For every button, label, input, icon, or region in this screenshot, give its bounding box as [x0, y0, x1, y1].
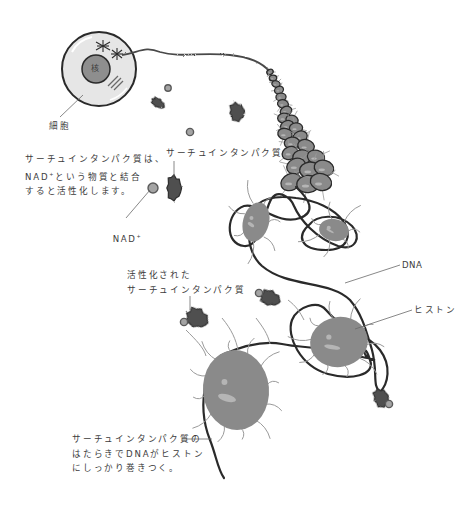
nad-molecule	[186, 128, 193, 135]
histone-tail	[344, 205, 361, 222]
wrapping-note-line3: にしっかり巻きつく。	[72, 461, 204, 476]
nad-molecule	[255, 289, 262, 296]
nucleosome-highlight	[274, 84, 277, 85]
sirtuin-protein	[183, 304, 212, 332]
histone-tail	[248, 338, 255, 355]
activation-note-line1: サーチュインタンパク質は、	[25, 152, 165, 167]
sirtuin-protein	[228, 101, 246, 123]
histone-tail	[255, 420, 270, 439]
nucleosome-highlight	[292, 128, 296, 130]
histone-tail	[261, 352, 280, 367]
activated-sirtuin	[180, 304, 212, 332]
histone-highlight	[326, 334, 331, 339]
nucleosome-highlight	[304, 170, 311, 173]
nad-molecule	[165, 85, 171, 91]
nucleosome-highlight	[302, 185, 309, 188]
cell-leader-line	[60, 95, 83, 117]
nucleosome-highlight	[271, 78, 273, 79]
chromatin-fiber	[122, 49, 270, 72]
nucleosome-highlight	[315, 182, 322, 185]
nucleosome-highlight	[286, 153, 291, 155]
histone-tail	[344, 365, 348, 377]
nucleosome-highlight	[285, 182, 292, 185]
nucleosome-chain	[266, 67, 339, 203]
wrapping-note: サーチュインタンパク質の はたらきでDNAがヒストン にしっかり巻きつく。	[72, 432, 204, 476]
histone-tail	[268, 220, 280, 223]
activated-sirtuin-label-line1: 活性化された	[127, 268, 246, 283]
dna-label: DNA	[402, 258, 422, 272]
sirtuin-protein	[150, 95, 167, 111]
histone-tail	[247, 180, 253, 203]
sirtuin-illustration	[0, 0, 472, 511]
histone-highlight	[221, 379, 227, 385]
activation-note: サーチュインタンパク質は、 NAD+という物質と結合 すると活性化します。	[25, 152, 165, 199]
sirtuin-label: サーチュインタンパク質	[166, 146, 283, 160]
histone-highlight	[327, 226, 331, 230]
histone-tail	[265, 404, 282, 411]
nucleosome-highlight	[291, 166, 297, 169]
histone-tail	[267, 381, 279, 384]
activated-sirtuin-label-line2: サーチュインタンパク質	[127, 283, 246, 298]
histone-tail	[264, 237, 275, 251]
activated-sirtuin	[255, 287, 282, 309]
nucleosome-highlight	[268, 72, 270, 73]
activation-note-line2: NAD+という物質と結合	[25, 167, 165, 185]
histone	[190, 338, 282, 442]
nad-molecule	[385, 400, 392, 407]
nucleosome-highlight	[319, 168, 325, 171]
histone-tail	[190, 369, 207, 376]
nad-label: NAD+	[104, 215, 142, 246]
dna-leader-line	[345, 265, 400, 283]
histone-tail	[192, 413, 211, 428]
histone-tail	[218, 425, 225, 442]
histone-leader-line	[355, 310, 412, 329]
nucleus-label: 核	[91, 62, 99, 76]
histone-highlight	[249, 216, 253, 220]
wrapping-note-line2: はたらきでDNAがヒストン	[72, 447, 204, 462]
histone-tail	[348, 229, 360, 232]
cell-label: 細胞	[49, 119, 70, 133]
wrapping-note-line1: サーチュインタンパク質の	[72, 432, 204, 447]
sirtuin-protein	[167, 175, 182, 201]
histone-core	[200, 347, 273, 432]
histone	[229, 180, 281, 264]
histone-tail	[310, 318, 319, 326]
nucleosome-highlight	[276, 90, 279, 91]
activated-sirtuin-label: 活性化された サーチュインタンパク質	[127, 268, 246, 297]
activation-note-line3: すると活性化します。	[25, 184, 165, 199]
nucleosome-highlight	[281, 134, 286, 136]
nad-molecule	[180, 318, 187, 325]
histone-label: ヒストン	[414, 303, 456, 317]
